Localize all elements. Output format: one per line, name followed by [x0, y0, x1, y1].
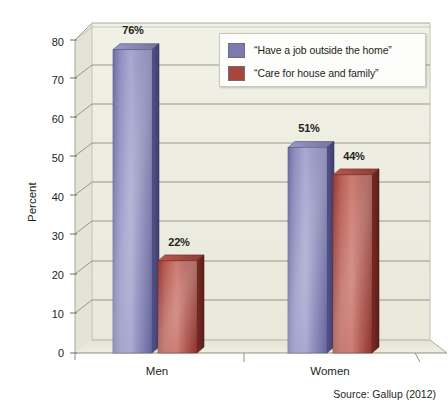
bar-sheen — [333, 175, 372, 353]
bar-value-women-blue: 51% — [286, 122, 332, 134]
legend-swatch-blue-icon — [228, 43, 245, 58]
bar-top-face — [333, 169, 379, 175]
y-tick-label-50: 50 — [38, 152, 64, 164]
y-tick-label-10: 10 — [38, 308, 64, 320]
y-tick-label-0: 0 — [38, 347, 64, 359]
xtick-right — [415, 353, 420, 362]
legend-item-have-a-job[interactable]: “Have a job outside the home” — [228, 40, 392, 60]
y-tick-label-70: 70 — [38, 74, 64, 86]
legend-swatch-red-icon — [228, 66, 245, 81]
legend-item-care-for-house[interactable]: “Care for house and family” — [228, 63, 379, 83]
legend-label-care-for-house: “Care for house and family” — [254, 67, 379, 79]
bar-sheen — [158, 261, 197, 353]
legend-label-have-a-job: “Have a job outside the home” — [254, 44, 392, 56]
y-tick-label-80: 80 — [38, 36, 64, 48]
bar-side-face — [197, 255, 204, 353]
bar-women-have-a-job[interactable] — [288, 142, 334, 354]
bar-men-care-for-house[interactable] — [158, 255, 204, 353]
bar-top-face — [158, 255, 204, 261]
x-axis-ticks — [75, 353, 420, 362]
bar-chart: 80 70 60 50 40 30 20 10 0 Percent 76% 22… — [0, 0, 448, 416]
bar-sheen — [113, 50, 152, 353]
bar-women-care-for-house[interactable] — [333, 169, 379, 353]
bar-value-men-blue: 76% — [110, 24, 156, 36]
bar-value-men-red: 22% — [156, 236, 202, 248]
y-tick-label-40: 40 — [38, 191, 64, 203]
bar-sheen — [288, 148, 327, 354]
bar-value-women-red: 44% — [331, 150, 377, 162]
legend: “Have a job outside the home” “Care for … — [219, 33, 426, 87]
x-category-label-men: Men — [127, 365, 187, 377]
y-axis-title: Percent — [26, 182, 38, 222]
y-tick-label-20: 20 — [38, 269, 64, 281]
bar-men-have-a-job[interactable] — [113, 44, 159, 353]
x-category-label-women: Women — [300, 365, 360, 377]
y-tick-label-30: 30 — [38, 230, 64, 242]
y-tick-label-60: 60 — [38, 113, 64, 125]
bar-top-face — [113, 44, 159, 50]
bar-side-face — [372, 169, 379, 353]
source-note: Source: Gallup (2012) — [240, 388, 436, 400]
bar-top-face — [288, 142, 334, 148]
